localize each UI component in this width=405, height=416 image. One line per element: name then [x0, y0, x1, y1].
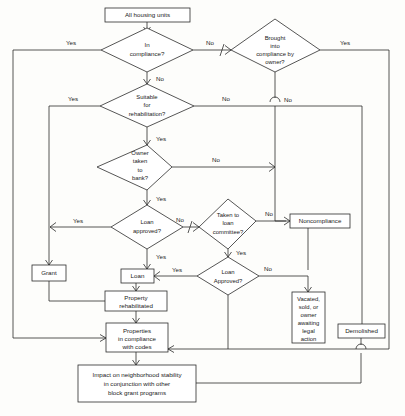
node-label-loancommittee-l2: loan: [222, 220, 233, 226]
node-label-vacated-l5: legal: [302, 328, 314, 334]
node-loan-approved-2[interactable]: Loan Approved?: [197, 257, 259, 295]
node-label-loancommittee-l3: committee?: [213, 229, 244, 235]
node-label-propcompliance-l3: with codes: [121, 343, 151, 350]
node-label-brought-l1: Brought: [265, 35, 286, 41]
node-in-compliance[interactable]: In compliance?: [101, 28, 193, 72]
node-label-ownerbank-l3: to: [138, 167, 144, 173]
edge-demolished-down-b: [196, 353, 361, 383]
node-owner-taken-to-bank[interactable]: Owner taken to bank?: [97, 145, 172, 190]
node-label-suitable-l2: for: [144, 102, 151, 108]
edge-label-loanapproved2-no: No: [264, 265, 272, 272]
node-label-ownerbank-l2: taken: [133, 158, 147, 164]
edge-label-suitable-yes: Yes: [68, 95, 78, 102]
node-loan-committee[interactable]: Taken to loan committee?: [199, 199, 256, 249]
node-label-impact-l3: block grant programs: [108, 389, 166, 396]
node-label-impact-l1: Impact on neighborhood stability: [92, 371, 182, 378]
node-impact[interactable]: Impact on neighborhood stability in conj…: [78, 365, 196, 402]
edge-label-loanapproved1-yes-left: Yes: [73, 217, 83, 224]
node-label-property-l2: rehabilitated: [119, 302, 153, 309]
node-label-suitable-l1: Suitable: [136, 94, 158, 100]
node-demolished[interactable]: Demolished: [338, 324, 385, 338]
node-label-propcompliance-l2: in compliance: [118, 335, 156, 342]
node-label-in-compliance-l1: In: [144, 41, 150, 48]
node-label-loan: Loan: [131, 272, 145, 279]
edge-compliance-yes: [13, 50, 106, 338]
edge-label-brought-no: No: [284, 96, 292, 103]
edge-label-loanapproved1-no: No: [176, 216, 184, 223]
node-label-loanapproved1-l2: approved?: [133, 228, 162, 234]
flowchart-svg: All housing units In compliance? Brought…: [0, 0, 405, 416]
edge-label-in-compliance-yes: Yes: [66, 39, 76, 46]
node-label-loanapproved1-l1: Loan: [140, 219, 153, 225]
node-properties-in-compliance[interactable]: Properties in compliance with codes: [106, 323, 168, 352]
node-label-brought-l2: into: [270, 43, 280, 49]
edge-label-ownerbank-no: No: [212, 156, 220, 163]
node-label-vacated-l3: owner: [300, 312, 316, 318]
node-label-brought-l4: owner?: [265, 59, 285, 65]
edge-label-loancommittee-yes: Yes: [236, 249, 246, 256]
node-noncompliance[interactable]: Noncompliance: [290, 214, 350, 228]
node-vacated-sold-owner[interactable]: Vacated, sold, or owner awaiting legal a…: [292, 292, 325, 343]
node-label-vacated-l6: action: [301, 336, 317, 342]
node-label-in-compliance-l2: compliance?: [130, 50, 165, 57]
node-label-suitable-l3: rehabilitation?: [129, 111, 166, 117]
edge-label-brought-yes: Yes: [340, 39, 350, 46]
connectors: [13, 22, 389, 383]
node-all-housing-units[interactable]: All housing units: [105, 8, 190, 22]
edge-label-loancommittee-no: No: [265, 210, 273, 217]
node-loan-approved-1[interactable]: Loan approved?: [111, 205, 183, 249]
edge-labels: Yes No No Yes No Yes No Yes No Yes Yes N…: [66, 39, 350, 273]
node-label-loanapproved2-l1: Loan: [221, 269, 234, 275]
node-label-propcompliance-l1: Properties: [123, 327, 151, 334]
node-label-loancommittee-l1: Taken to: [217, 212, 240, 218]
node-suitable-rehabilitation[interactable]: Suitable for rehabilitation?: [100, 84, 194, 127]
node-brought-into-compliance[interactable]: Brought into compliance by owner?: [231, 19, 320, 72]
node-label-ownerbank-l1: Owner: [131, 150, 148, 156]
edge-loanapproved2-no: [259, 276, 308, 292]
edge-suitable-no: [194, 106, 362, 221]
node-label-grant: Grant: [41, 269, 57, 276]
node-label-noncompliance: Noncompliance: [299, 217, 342, 224]
edge-label-ownerbank-yes: Yes: [156, 195, 166, 202]
node-label-ownerbank-l4: bank?: [132, 175, 149, 181]
node-property-rehabilitated[interactable]: Property rehabilitated: [105, 291, 167, 311]
node-label-brought-l3: compliance by: [256, 51, 294, 57]
node-label-loanapproved2-l2: Approved?: [214, 278, 243, 284]
edge-label-loanapproved2-yes: Yes: [172, 266, 182, 273]
edge-brought-yes: [168, 50, 389, 349]
node-label-impact-l2: in conjunction with other: [104, 380, 170, 387]
edge-brought-no-down-b: [275, 106, 286, 221]
node-label-demolished: Demolished: [345, 327, 378, 334]
node-label-all-housing-units: All housing units: [125, 11, 170, 18]
edge-grant-to-property: [49, 281, 105, 301]
edge-label-loanapproved1-yes-down: Yes: [156, 253, 166, 260]
edge-label-in-compliance-no-right: No: [206, 39, 214, 46]
node-label-vacated-l2: sold, or: [299, 304, 318, 310]
edge-label-in-compliance-no-down: No: [156, 75, 164, 82]
node-loan[interactable]: Loan: [121, 269, 154, 283]
node-label-vacated-l4: awaiting: [298, 320, 320, 326]
flowchart-canvas: All housing units In compliance? Brought…: [0, 0, 405, 416]
edge-suitable-yes: [49, 106, 100, 265]
node-label-property-l1: Property: [124, 294, 148, 301]
edge-label-suitable-down-yes: Yes: [156, 135, 166, 142]
node-grant[interactable]: Grant: [32, 265, 66, 281]
node-label-vacated-l1: Vacated,: [297, 296, 320, 302]
edge-label-suitable-no: No: [222, 95, 230, 102]
